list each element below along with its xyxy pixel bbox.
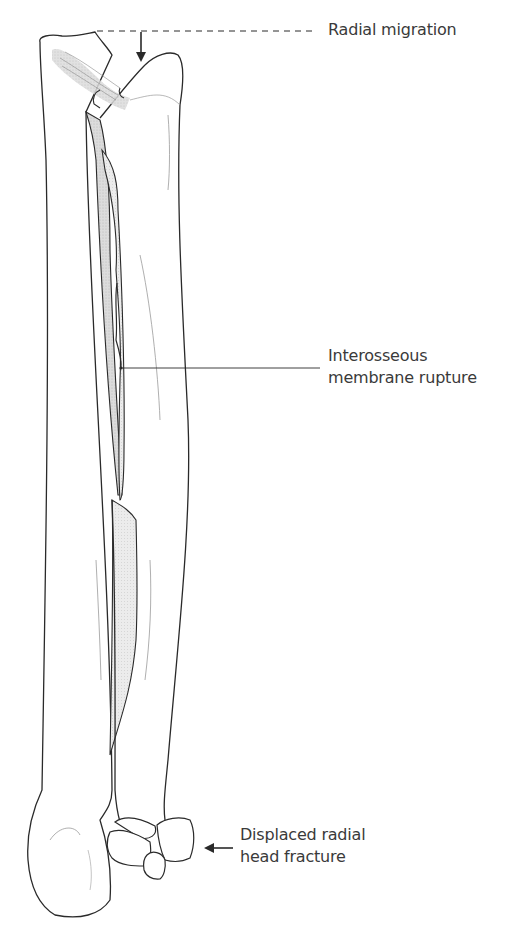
- radial-migration-label: Radial migration: [328, 19, 457, 41]
- interosseous-leader-line: [119, 366, 320, 369]
- radial-migration-text: Radial migration: [328, 19, 457, 41]
- interosseous-label-line1: Interosseous: [328, 345, 477, 367]
- radial-head-fragments: [107, 818, 194, 879]
- radial-head-fracture-label: Displaced radial head fracture: [240, 824, 365, 868]
- radial-head-arrow: [204, 843, 233, 853]
- radial-head-label-line1: Displaced radial: [240, 824, 365, 846]
- forearm-illustration: [0, 0, 515, 937]
- radial-head-label-line2: head fracture: [240, 846, 365, 868]
- interosseous-label-line2: membrane rupture: [328, 367, 477, 389]
- radial-migration-indicator: [97, 31, 312, 62]
- interosseous-membrane-label: Interosseous membrane rupture: [328, 345, 477, 389]
